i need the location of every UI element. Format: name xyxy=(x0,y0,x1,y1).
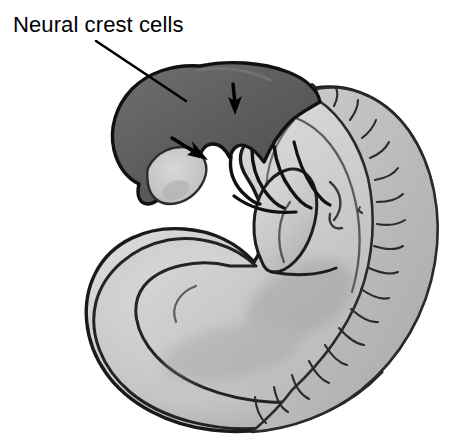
page-title: Neural crest cells xyxy=(13,12,184,38)
embryo-illustration xyxy=(0,0,460,447)
figure-root: Neural crest cells xyxy=(0,0,460,447)
